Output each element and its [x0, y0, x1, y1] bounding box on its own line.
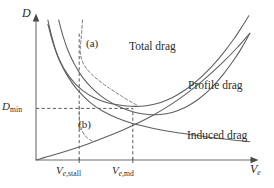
y-axis-arrow-icon — [33, 14, 40, 22]
y-tick-label-dmin: Dmin — [2, 101, 22, 113]
annotation-a: (a) — [86, 38, 98, 49]
curve-label-profile-drag: Profile drag — [188, 80, 243, 92]
annotation-b: (b) — [78, 119, 91, 130]
x-tick-label-vmd-sub-roman: md — [124, 169, 134, 178]
y-tick-label-sub: min — [10, 105, 22, 114]
curve-total-drag — [48, 16, 249, 107]
curve-label-total-drag: Total drag — [129, 41, 176, 53]
drag-vs-velocity-figure: D Ve Dmin Ve,stall Ve,md Total drag Prof… — [0, 0, 274, 188]
x-axis-label-sub: e — [257, 168, 260, 177]
x-tick-label-vmd: Ve,md — [112, 165, 134, 177]
x-axis-label: Ve — [250, 163, 261, 176]
x-tick-label-vstall-base: V — [56, 164, 63, 176]
x-tick-label-vmd-base: V — [112, 164, 119, 176]
y-tick-label-base: D — [2, 100, 10, 112]
plot-canvas — [0, 0, 274, 188]
y-axis-label: D — [22, 7, 31, 19]
x-tick-label-vstall: Ve,stall — [56, 165, 81, 177]
x-tick-label-vstall-sub-roman: stall — [68, 169, 81, 178]
curve-label-induced-drag: Induced drag — [187, 130, 247, 142]
curve-stall-branch-a — [80, 20, 136, 105]
